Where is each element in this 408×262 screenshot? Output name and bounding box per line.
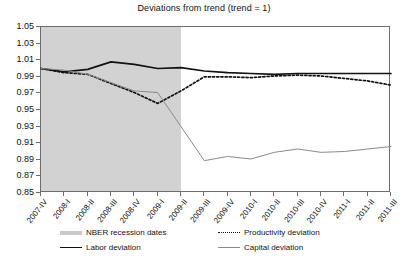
y-tick-label: 0.97 [16, 88, 34, 97]
x-tick-label: 2010-II [261, 198, 283, 223]
x-tick-label: 2010-IV [306, 198, 330, 225]
x-tick-label: 2009-III [190, 198, 213, 224]
y-tick-label: 1.01 [16, 55, 34, 64]
series-layer [41, 27, 391, 193]
legend-label: Productivity deviation [244, 228, 320, 237]
x-tick [133, 192, 134, 196]
plot-area [40, 26, 390, 192]
x-tick-label: 2009-IV [212, 198, 236, 225]
x-tick [180, 192, 181, 196]
x-tick-label: 2009-II [168, 198, 190, 223]
x-tick [320, 192, 321, 196]
x-tick-label: 2009-I [146, 198, 166, 221]
x-tick-label: 2011-II [355, 198, 376, 222]
x-tick [250, 192, 251, 196]
x-tick-label: 2008-III [96, 198, 119, 224]
chart-legend: NBER recession dates Productivity deviat… [0, 228, 408, 260]
legend-item-nber: NBER recession dates [60, 228, 166, 237]
x-tick [343, 192, 344, 196]
x-tick [297, 192, 298, 196]
dotted-line-icon [218, 232, 240, 233]
y-tick-label: 0.93 [16, 121, 34, 130]
solid-gray-line-icon [218, 247, 240, 248]
y-axis: 0.850.870.890.910.930.950.970.991.011.03… [0, 26, 40, 192]
y-tick-label: 0.87 [16, 171, 34, 180]
legend-label: Capital deviation [244, 243, 303, 252]
chart-figure: Deviations from trend (trend = 1) 0.850.… [0, 0, 408, 262]
x-tick-label: 2010-III [283, 198, 306, 224]
legend-label: NBER recession dates [86, 228, 166, 237]
x-tick-label: 2011-I [333, 198, 353, 220]
x-tick-label: 2010-I [239, 198, 259, 221]
x-tick [367, 192, 368, 196]
solid-black-line-icon [60, 247, 82, 248]
x-tick [40, 192, 41, 196]
x-tick-label: 2008-I [52, 198, 72, 221]
y-tick-label: 0.89 [16, 154, 34, 163]
y-tick-label: 1.05 [16, 22, 34, 31]
y-tick-label: 0.99 [16, 71, 34, 80]
legend-item-capital: Capital deviation [218, 243, 303, 252]
legend-item-labor: Labor deviation [60, 243, 141, 252]
y-tick-label: 0.95 [16, 105, 34, 114]
x-tick-label: 2011-III [377, 198, 400, 224]
legend-item-productivity: Productivity deviation [218, 228, 320, 237]
x-tick [273, 192, 274, 196]
y-tick-label: 1.03 [16, 38, 34, 47]
chart-title: Deviations from trend (trend = 1) [0, 3, 408, 13]
x-tick [157, 192, 158, 196]
x-tick [63, 192, 64, 196]
x-tick [110, 192, 111, 196]
x-tick-label: 2008-II [74, 198, 96, 223]
y-tick-label: 0.85 [16, 188, 34, 197]
x-tick [87, 192, 88, 196]
series-line-labor-deviation [41, 62, 391, 74]
legend-label: Labor deviation [86, 243, 141, 252]
x-tick-label: 2008-IV [119, 198, 143, 225]
recession-band-swatch-icon [60, 231, 82, 235]
x-tick [203, 192, 204, 196]
x-tick [390, 192, 391, 196]
x-tick-label: 2007-IV [26, 198, 50, 225]
x-tick [227, 192, 228, 196]
y-tick-label: 0.91 [16, 138, 34, 147]
series-line-capital-deviation [41, 69, 391, 161]
